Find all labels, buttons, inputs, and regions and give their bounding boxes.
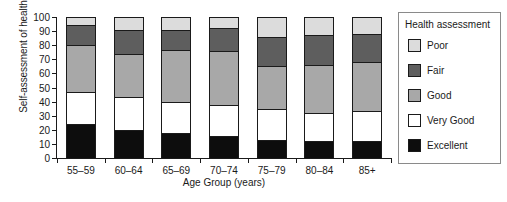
bar-segment-very-good[interactable] (304, 113, 334, 142)
bar-segment-good[interactable] (161, 50, 191, 102)
legend-swatch-icon (408, 39, 421, 52)
y-tick-mark (52, 102, 57, 103)
legend-item-poor[interactable]: Poor (408, 39, 448, 52)
x-tick-mark (152, 158, 153, 163)
legend: Health assessment PoorFairGoodVery GoodE… (398, 12, 501, 164)
bar-segment-very-good[interactable] (66, 92, 96, 125)
bar-segment-good[interactable] (114, 54, 144, 98)
y-tick-label: 0 (44, 153, 50, 164)
bar-segment-excellent[interactable] (114, 130, 144, 159)
y-tick-mark (52, 59, 57, 60)
x-tick-mark (296, 158, 297, 163)
plot-area: 010203040506070809010055–5960–6465–6970–… (57, 17, 391, 158)
legend-item-good[interactable]: Good (408, 89, 451, 102)
y-tick-mark (52, 31, 57, 32)
bar-segment-poor[interactable] (114, 17, 144, 31)
y-tick-label: 40 (39, 96, 50, 107)
y-tick-label: 90 (39, 26, 50, 37)
bar-segment-excellent[interactable] (209, 136, 239, 159)
bar-segment-poor[interactable] (209, 17, 239, 29)
bar-segment-fair[interactable] (114, 30, 144, 55)
legend-label: Poor (427, 40, 448, 51)
y-tick-mark (52, 45, 57, 46)
bar-segment-poor[interactable] (352, 17, 382, 35)
bar-segment-fair[interactable] (257, 37, 287, 68)
y-tick-label: 100 (33, 12, 50, 23)
bar-segment-fair[interactable] (352, 34, 382, 63)
bar-segment-excellent[interactable] (352, 141, 382, 159)
x-tick-mark (57, 158, 58, 163)
x-tick-mark (248, 158, 249, 163)
y-tick-label: 10 (39, 138, 50, 149)
bar-segment-good[interactable] (304, 65, 334, 114)
bar-70-74[interactable] (209, 17, 239, 158)
bar-segment-excellent[interactable] (66, 124, 96, 159)
legend-swatch-icon (408, 114, 421, 127)
bar-segment-good[interactable] (209, 51, 239, 106)
bar-65-69[interactable] (161, 17, 191, 158)
legend-label: Excellent (427, 140, 468, 151)
bar-segment-very-good[interactable] (352, 111, 382, 142)
bar-segment-poor[interactable] (257, 17, 287, 38)
legend-item-very-good[interactable]: Very Good (408, 114, 474, 127)
y-tick-label: 30 (39, 110, 50, 121)
bar-segment-fair[interactable] (304, 35, 334, 66)
x-axis-title: Age Group (years) (57, 177, 391, 188)
y-tick-label: 80 (39, 40, 50, 51)
y-tick-mark (52, 130, 57, 131)
bar-segment-fair[interactable] (161, 30, 191, 51)
bar-segment-excellent[interactable] (257, 140, 287, 159)
legend-swatch-icon (408, 139, 421, 152)
y-tick-label: 70 (39, 54, 50, 65)
y-tick-mark (52, 73, 57, 74)
legend-label: Fair (427, 65, 444, 76)
legend-label: Good (427, 90, 451, 101)
chart-figure: Self-assessment of health (%) 0102030405… (0, 0, 507, 202)
bar-segment-fair[interactable] (66, 25, 96, 46)
y-tick-label: 20 (39, 124, 50, 135)
y-axis-title: Self-assessment of health (%) (18, 0, 29, 123)
bar-75-79[interactable] (257, 17, 287, 158)
bar-segment-poor[interactable] (161, 17, 191, 31)
bar-segment-excellent[interactable] (304, 141, 334, 159)
bar-segment-poor[interactable] (304, 17, 334, 36)
legend-swatch-icon (408, 64, 421, 77)
bar-80-84[interactable] (304, 17, 334, 158)
bar-60-64[interactable] (114, 17, 144, 158)
legend-title: Health assessment (405, 19, 490, 30)
bar-segment-very-good[interactable] (257, 109, 287, 142)
bar-segment-good[interactable] (66, 45, 96, 93)
x-tick-label: 85+ (338, 165, 396, 176)
legend-item-excellent[interactable]: Excellent (408, 139, 468, 152)
bar-segment-fair[interactable] (209, 28, 239, 52)
bar-55-59[interactable] (66, 17, 96, 158)
bar-85+[interactable] (352, 17, 382, 158)
y-tick-mark (52, 144, 57, 145)
y-tick-label: 50 (39, 82, 50, 93)
bar-segment-good[interactable] (352, 62, 382, 112)
x-tick-mark (200, 158, 201, 163)
x-tick-mark (105, 158, 106, 163)
y-tick-label: 60 (39, 68, 50, 79)
legend-swatch-icon (408, 89, 421, 102)
legend-item-fair[interactable]: Fair (408, 64, 444, 77)
y-tick-mark (52, 88, 57, 89)
bar-segment-very-good[interactable] (114, 97, 144, 131)
bar-segment-very-good[interactable] (161, 102, 191, 135)
bar-segment-excellent[interactable] (161, 133, 191, 159)
legend-label: Very Good (427, 115, 474, 126)
y-tick-mark (52, 17, 57, 18)
bar-segment-good[interactable] (257, 66, 287, 109)
bar-segment-poor[interactable] (66, 17, 96, 26)
x-tick-mark (391, 158, 392, 163)
bar-segment-very-good[interactable] (209, 105, 239, 137)
x-tick-mark (343, 158, 344, 163)
y-tick-mark (52, 116, 57, 117)
